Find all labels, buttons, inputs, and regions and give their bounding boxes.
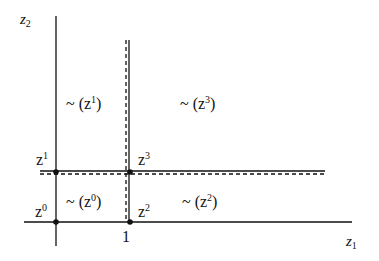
point-z1 — [53, 169, 59, 175]
point-z3 — [127, 169, 133, 175]
diagram-lines — [0, 0, 379, 261]
label-z1: z1 — [36, 152, 48, 168]
region-z1: ~ (z1) — [66, 96, 101, 112]
z1-axis-label: z1 — [346, 234, 357, 251]
region-z3: ~ (z3) — [180, 96, 215, 112]
region-z2: ~ (z2) — [182, 194, 217, 210]
point-z2 — [127, 219, 133, 225]
x-tick-1: 1 — [122, 229, 130, 245]
point-z0 — [53, 219, 59, 225]
z2-axis-label: z2 — [20, 12, 31, 29]
region-z0: ~ (z0) — [66, 194, 101, 210]
label-z3: z3 — [138, 152, 150, 168]
diagram-canvas: z2 z1 1 z0 z1 z2 z3 ~ (z0) ~ (z1) ~ (z2)… — [0, 0, 379, 261]
label-z0: z0 — [35, 204, 47, 220]
label-z2: z2 — [138, 204, 150, 220]
